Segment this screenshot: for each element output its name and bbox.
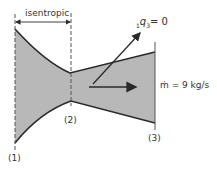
heat-transfer-label: 1q3= 0 (136, 16, 168, 29)
station-1-label: (1) (8, 153, 21, 163)
heat-label-value: = 0 (150, 16, 168, 27)
mass-flow-label: ṁ = 9 kg/s (160, 80, 209, 90)
station-2-label: (2) (64, 115, 77, 125)
isentropic-label: isentropic (25, 8, 69, 18)
station-3-label: (3) (148, 133, 161, 143)
nozzle-body (15, 29, 155, 143)
